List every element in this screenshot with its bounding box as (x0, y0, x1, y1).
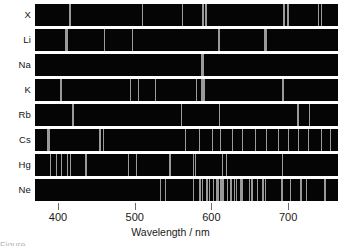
emission-line (142, 4, 143, 26)
spectrum-row-label: Li (0, 29, 31, 51)
emission-line (155, 79, 156, 101)
emission-line (308, 129, 309, 151)
spectrum-row-label: Na (0, 54, 31, 76)
spectra-rows: XLiNaKRbCsHgNe (0, 4, 341, 204)
emission-line (165, 179, 166, 201)
emission-line (199, 179, 201, 201)
emission-line (321, 4, 322, 26)
spectrum-band (35, 129, 338, 151)
emission-line (282, 154, 283, 176)
emission-line (281, 179, 283, 201)
spectrum-row: Cs (0, 129, 341, 151)
emission-line (206, 179, 208, 201)
emission-line (306, 179, 307, 201)
spectrum-row: Li (0, 29, 341, 51)
spectrum-row: Na (0, 54, 341, 76)
spectrum-band (35, 154, 338, 176)
emission-line (202, 4, 204, 26)
emission-line (160, 179, 161, 201)
emission-line (297, 104, 299, 126)
emission-line (136, 154, 137, 176)
emission-line (196, 79, 197, 101)
emission-line (182, 4, 183, 26)
emission-line (61, 154, 62, 176)
caption-partial: Figure (0, 240, 341, 246)
emission-line (288, 129, 289, 151)
emission-line (218, 29, 220, 51)
emission-line (99, 129, 101, 151)
emission-line (201, 79, 205, 101)
emission-line (128, 154, 129, 176)
emission-line (50, 154, 51, 176)
emission-line (242, 129, 243, 151)
emission-line (257, 179, 258, 201)
emission-line (226, 154, 227, 176)
emission-line (234, 179, 235, 201)
emission-line (318, 4, 319, 26)
axis-tick (58, 203, 59, 210)
emission-line (138, 79, 139, 101)
axis-tick-label: 700 (279, 211, 297, 223)
emission-line (169, 154, 171, 176)
emission-line (324, 179, 326, 201)
emission-line (103, 129, 104, 151)
emission-line (67, 154, 68, 176)
emission-line (212, 129, 213, 151)
emission-line (72, 104, 74, 126)
emission-line (69, 4, 71, 26)
axis-tick (288, 203, 289, 210)
emission-line (201, 54, 204, 76)
spectrum-row: Rb (0, 104, 341, 126)
emission-line (209, 179, 210, 201)
emission-line (262, 179, 264, 201)
emission-line (199, 129, 200, 151)
emission-line (278, 129, 279, 151)
axis-tick-label: 400 (49, 211, 67, 223)
emission-line (282, 79, 284, 101)
emission-line (65, 29, 67, 51)
emission-line (251, 179, 253, 201)
emission-line (213, 179, 214, 201)
emission-line (266, 129, 267, 151)
spectrum-band (35, 4, 338, 26)
spectrum-band (35, 179, 338, 201)
axis-tick (211, 203, 212, 210)
emission-line (232, 129, 233, 151)
emission-line (330, 129, 331, 151)
emission-line (195, 154, 196, 176)
spectrum-band (35, 54, 338, 76)
spectra-figure: XLiNaKRbCsHgNe 400500600700 Wavelength /… (0, 0, 341, 246)
spectrum-row-label: X (0, 4, 31, 26)
emission-line (185, 129, 186, 151)
emission-line (130, 79, 131, 101)
emission-line (220, 129, 221, 151)
emission-line (132, 29, 133, 51)
emission-line (298, 129, 299, 151)
emission-line (193, 179, 194, 201)
spectrum-row-label: K (0, 79, 31, 101)
emission-line (321, 129, 322, 151)
emission-line (56, 154, 57, 176)
emission-line (264, 29, 267, 51)
emission-line (309, 104, 310, 126)
emission-line (287, 4, 289, 26)
emission-line (67, 29, 68, 51)
emission-line (222, 154, 223, 176)
emission-line (223, 179, 224, 201)
axis-tick (135, 203, 136, 210)
emission-line (47, 129, 50, 151)
emission-line (242, 179, 243, 201)
emission-line (300, 179, 302, 201)
spectrum-row: Hg (0, 154, 341, 176)
emission-line (70, 154, 71, 176)
emission-line (104, 29, 105, 51)
spectrum-row: X (0, 4, 341, 26)
emission-line (236, 179, 237, 201)
axis-tick-labels: 400500600700 (0, 211, 341, 225)
axis-tick-label: 600 (202, 211, 220, 223)
emission-line (202, 179, 203, 201)
axis-tick-label: 500 (126, 211, 144, 223)
emission-line (85, 154, 87, 176)
emission-line (218, 179, 219, 201)
spectrum-row-label: Rb (0, 104, 31, 126)
